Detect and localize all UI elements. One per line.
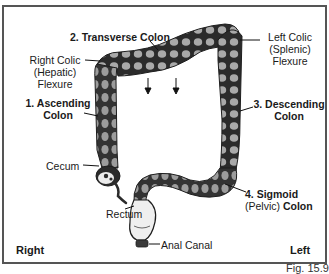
label-line: 3. Descending xyxy=(250,98,328,110)
figure-caption: Fig. 15.9 xyxy=(286,262,329,274)
label-number: 2. xyxy=(70,31,79,43)
orientation-left-label: Left xyxy=(290,244,310,256)
right-colic-flexure-label: Right Colic (Hepatic) Flexure xyxy=(27,54,83,90)
ascending-colon-label: 1. Ascending Colon xyxy=(23,97,93,121)
label-line: Flexure xyxy=(27,78,83,90)
label-line: Colon xyxy=(250,110,328,122)
descending-colon xyxy=(218,30,242,172)
label-line: (Hepatic) xyxy=(27,66,83,78)
label-name: Transverse Colon xyxy=(82,31,170,43)
label-line: Left Colic xyxy=(260,31,320,43)
downward-arrow-icon xyxy=(145,78,151,94)
cecum-label: Cecum xyxy=(46,160,79,172)
label-line: Flexure xyxy=(260,55,320,67)
transverse-colon-label: 2. Transverse Colon xyxy=(70,31,170,43)
appendix xyxy=(114,182,126,203)
rectum-label: Rectum xyxy=(106,208,142,220)
label-line: 4. Sigmoid xyxy=(245,188,313,200)
sigmoid-colon xyxy=(134,168,237,205)
downward-arrow-icon xyxy=(173,78,179,94)
label-line: Right Colic xyxy=(27,54,83,66)
descending-colon-label: 3. Descending Colon xyxy=(250,98,328,122)
orientation-right-label: Right xyxy=(16,244,44,256)
left-colic-flexure-label: Left Colic (Splenic) Flexure xyxy=(260,31,320,67)
label-paren: (Pelvic) xyxy=(245,200,280,212)
label-line: Colon xyxy=(23,109,93,121)
label-line: (Splenic) xyxy=(260,43,320,55)
sigmoid-colon-label: 4. Sigmoid (Pelvic) Colon xyxy=(245,188,313,212)
label-bold: Colon xyxy=(283,200,313,212)
anal-canal xyxy=(136,240,148,247)
label-line: 1. Ascending xyxy=(23,97,93,109)
ascending-colon xyxy=(95,64,118,168)
anal-canal-label: Anal Canal xyxy=(161,239,212,251)
